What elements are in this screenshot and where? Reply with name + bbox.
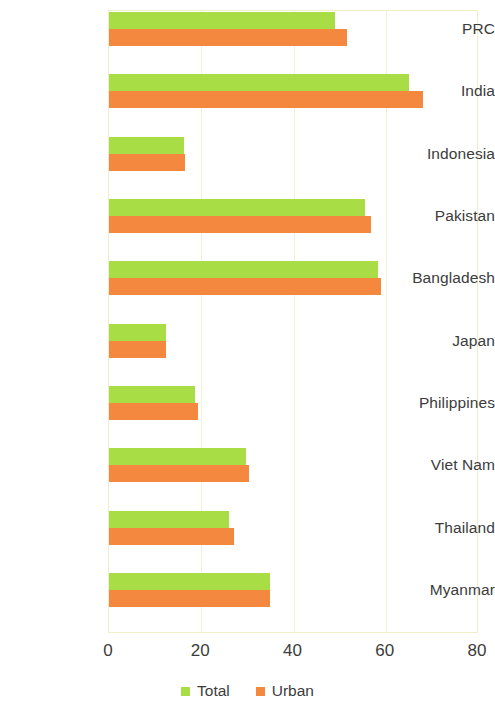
bar-total	[109, 137, 184, 154]
bar-total	[109, 199, 365, 216]
bar-total	[109, 324, 166, 341]
x-tick-label: 40	[283, 641, 302, 661]
category-label: Pakistan	[395, 207, 495, 225]
bar-urban	[109, 278, 381, 295]
category-label: Myanmar	[395, 581, 495, 599]
x-axis: 020406080	[0, 641, 495, 671]
bar-chart: PRCIndiaIndonesiaPakistanBangladeshJapan…	[0, 0, 495, 713]
bar-urban	[109, 465, 249, 482]
category-label: Bangladesh	[395, 269, 495, 287]
bar-total	[109, 448, 246, 465]
chart-row: Thailand	[0, 508, 495, 570]
category-label: Thailand	[395, 519, 495, 537]
chart-row: Myanmar	[0, 571, 495, 633]
bar-total	[109, 12, 335, 29]
bar-urban	[109, 216, 371, 233]
chart-row: Philippines	[0, 384, 495, 446]
bar-urban	[109, 528, 234, 545]
chart-row: Pakistan	[0, 197, 495, 259]
x-tick-label: 0	[103, 641, 112, 661]
category-label: PRC	[395, 20, 495, 38]
x-tick-label: 80	[468, 641, 487, 661]
bar-urban	[109, 91, 423, 108]
bar-urban	[109, 154, 185, 171]
bar-total	[109, 386, 195, 403]
chart-row: Bangladesh	[0, 259, 495, 321]
category-label: Viet Nam	[395, 456, 495, 474]
category-label: Indonesia	[395, 145, 495, 163]
chart-row: Viet Nam	[0, 446, 495, 508]
chart-row: Japan	[0, 322, 495, 384]
chart-row: PRC	[0, 10, 495, 72]
bar-total	[109, 511, 229, 528]
chart-row: Indonesia	[0, 135, 495, 197]
bar-total	[109, 261, 378, 278]
bar-urban	[109, 341, 166, 358]
chart-legend: TotalUrban	[0, 682, 495, 700]
legend-label: Urban	[272, 682, 314, 700]
x-tick-label: 60	[375, 641, 394, 661]
category-label: Philippines	[395, 394, 495, 412]
legend-item-total[interactable]: Total	[181, 682, 230, 700]
x-tick-label: 20	[191, 641, 210, 661]
legend-item-urban[interactable]: Urban	[256, 682, 314, 700]
legend-label: Total	[197, 682, 230, 700]
legend-swatch-icon	[256, 687, 265, 696]
category-label: Japan	[395, 332, 495, 350]
bar-total	[109, 74, 409, 91]
chart-row: India	[0, 72, 495, 134]
bar-urban	[109, 590, 270, 607]
bar-urban	[109, 403, 198, 420]
bar-total	[109, 573, 270, 590]
bar-urban	[109, 29, 347, 46]
legend-swatch-icon	[181, 687, 190, 696]
